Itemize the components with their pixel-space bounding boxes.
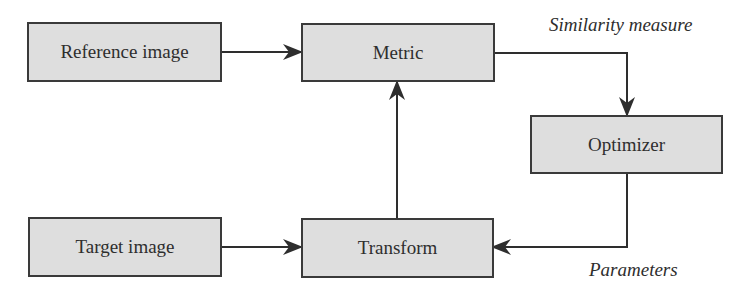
node-label: Reference image [60,41,188,63]
node-label: Target image [75,236,174,258]
edge-label-similarity-measure: Similarity measure [549,14,692,36]
arrow-optimizer-to-transform [493,173,627,247]
edge-label-parameters: Parameters [589,259,678,281]
node-label: Metric [373,42,424,64]
node-metric: Metric [301,23,495,82]
arrow-metric-to-optimizer [495,53,627,115]
node-optimizer: Optimizer [530,115,723,174]
node-label: Optimizer [588,134,665,156]
node-transform: Transform [301,218,494,278]
node-label: Transform [358,237,438,259]
node-reference-image: Reference image [27,22,222,82]
node-target-image: Target image [28,217,222,277]
